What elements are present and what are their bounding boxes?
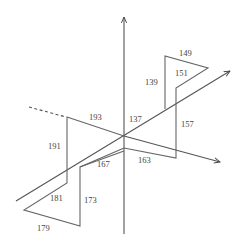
- label-167: 167: [97, 160, 110, 169]
- label-179: 179: [37, 224, 50, 233]
- label-181: 181: [50, 194, 63, 203]
- label-173: 173: [84, 196, 97, 205]
- label-191: 191: [48, 142, 61, 151]
- label-193: 193: [89, 113, 102, 122]
- diagram-canvas: 137 139 149 151 157 163 167 173 179 181 …: [0, 0, 244, 246]
- right-step-path: [124, 56, 208, 158]
- label-151: 151: [175, 69, 188, 78]
- label-157: 157: [181, 120, 194, 129]
- label-149: 149: [179, 49, 192, 58]
- dashed-extension: [29, 107, 66, 117]
- label-139: 139: [145, 78, 158, 87]
- label-137: 137: [129, 115, 142, 124]
- label-163: 163: [138, 156, 151, 165]
- lower-left-step-path: [24, 117, 124, 226]
